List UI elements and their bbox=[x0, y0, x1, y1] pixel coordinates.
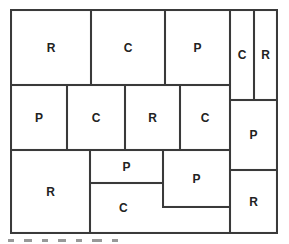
cell-label: R bbox=[148, 111, 157, 125]
cell-label: R bbox=[249, 195, 258, 209]
cell-r1c3: P bbox=[164, 9, 231, 86]
cell-label: C bbox=[92, 111, 101, 125]
cell-r1c5: R bbox=[253, 9, 278, 101]
cell-label: C bbox=[124, 41, 133, 55]
cell-r2c4: C bbox=[179, 84, 231, 151]
cell-label: C bbox=[238, 48, 247, 62]
cell-r2c2: C bbox=[66, 84, 126, 151]
cell-r2c5: P bbox=[229, 99, 278, 171]
cell-r3c5: R bbox=[229, 169, 278, 234]
cell-label: P bbox=[193, 41, 201, 55]
cell-r1c4: C bbox=[229, 9, 255, 101]
cell-r2c1: P bbox=[10, 84, 68, 151]
cropped-caption bbox=[8, 239, 268, 244]
cell-label: R bbox=[261, 48, 270, 62]
cell-r3c4: P bbox=[162, 149, 231, 208]
cell-r3c2: P bbox=[89, 149, 164, 184]
cell-label: C bbox=[201, 111, 210, 125]
cell-label: R bbox=[47, 41, 56, 55]
cell-r1c2: C bbox=[90, 9, 166, 86]
cell-label: P bbox=[249, 128, 257, 142]
cell-r2c3: R bbox=[124, 84, 181, 151]
cell-r3c1: R bbox=[10, 149, 91, 234]
cell-label: R bbox=[46, 185, 55, 199]
cell-label: P bbox=[122, 160, 130, 174]
cell-label: P bbox=[192, 172, 200, 186]
cell-label: C bbox=[119, 201, 128, 215]
cell-label: P bbox=[35, 111, 43, 125]
cell-r1c1: R bbox=[10, 9, 92, 86]
